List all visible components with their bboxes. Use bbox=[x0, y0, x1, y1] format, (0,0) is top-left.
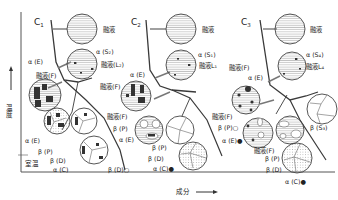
svg-text:α (E): α (E) bbox=[25, 137, 40, 144]
room-temp-label: 室温 bbox=[25, 159, 39, 168]
panel-c3: C3 融液 α (S₄) 融液L₄ 融液(F) α (E) 融液(F) β (P… bbox=[212, 14, 337, 185]
svg-text:β (D): β (D) bbox=[148, 155, 164, 163]
svg-text:β (P): β (P) bbox=[152, 144, 167, 152]
svg-text:融液(F): 融液(F) bbox=[229, 63, 250, 72]
svg-text:融液(F): 融液(F) bbox=[254, 146, 275, 155]
panel-c1-title: C1 bbox=[34, 17, 44, 28]
svg-text:融液: 融液 bbox=[310, 25, 323, 34]
svg-text:融液: 融液 bbox=[103, 25, 116, 34]
svg-text:α (C)●: α (C)● bbox=[153, 165, 174, 172]
svg-text:β (S₃): β (S₃) bbox=[310, 124, 327, 132]
svg-text:α (S₄): α (S₄) bbox=[306, 51, 324, 58]
y-axis-label: 温度 bbox=[4, 66, 13, 119]
svg-text:β (D)○: β (D)○ bbox=[108, 166, 130, 174]
svg-text:α (E): α (E) bbox=[28, 58, 43, 65]
panel-c2: C2 融液 α (S₁) 融液L₁ α (E) 融液(F) 融液(F) β (P… bbox=[100, 14, 222, 172]
svg-text:融液L₁: 融液L₁ bbox=[199, 61, 218, 70]
svg-text:α (C)●: α (C)● bbox=[285, 178, 306, 185]
panel-c1: C1 融液 α (S₂) 融液(L₂) α (E) 融液(F) α (E) β … bbox=[25, 14, 130, 174]
svg-text:β (D): β (D) bbox=[50, 157, 66, 165]
svg-text:α (E): α (E) bbox=[130, 71, 145, 78]
svg-text:成分: 成分 bbox=[176, 187, 190, 196]
svg-text:β (D): β (D) bbox=[266, 166, 282, 174]
svg-text:融液(F): 融液(F) bbox=[212, 112, 233, 121]
svg-text:融液(F): 融液(F) bbox=[107, 112, 128, 121]
svg-text:α (S₂): α (S₂) bbox=[96, 48, 114, 55]
svg-text:温度: 温度 bbox=[4, 103, 12, 119]
microstructure-diagram: 温度 室温 成分 C1 融液 α (S₂) 融液(L₂) α (E) 融液(F) bbox=[0, 0, 338, 200]
svg-text:融液(L₂): 融液(L₂) bbox=[101, 60, 124, 69]
svg-text:β (P): β (P) bbox=[113, 125, 128, 133]
svg-text:α (E)●: α (E)● bbox=[222, 137, 243, 144]
svg-text:α (S₁): α (S₁) bbox=[198, 51, 216, 58]
svg-text:融液L₄: 融液L₄ bbox=[306, 62, 325, 71]
svg-text:α (C): α (C) bbox=[53, 166, 68, 173]
svg-text:α (E): α (E) bbox=[119, 136, 134, 143]
svg-text:融液: 融液 bbox=[202, 25, 215, 34]
svg-text:β (P): β (P) bbox=[38, 148, 53, 156]
arrow-right-icon bbox=[213, 190, 218, 194]
panel-c3-title: C3 bbox=[241, 17, 251, 28]
svg-text:α (E): α (E) bbox=[248, 74, 263, 81]
x-axis-label: 成分 bbox=[176, 187, 218, 196]
arrow-up-icon bbox=[9, 66, 13, 71]
svg-text:β (P)○: β (P)○ bbox=[218, 124, 239, 132]
panel-c2-title: C2 bbox=[131, 17, 141, 28]
svg-text:融液(F): 融液(F) bbox=[36, 71, 57, 80]
svg-text:融液(F): 融液(F) bbox=[100, 82, 121, 91]
svg-text:β (P): β (P) bbox=[265, 155, 280, 163]
